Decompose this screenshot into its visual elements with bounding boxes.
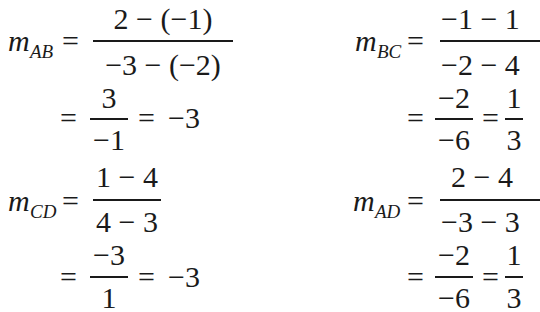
slope-ad-result-numerator: 1 — [505, 240, 523, 270]
slope-bc-step2-equals-2: = — [482, 103, 499, 133]
slope-ad-step2-equals-2: = — [482, 262, 499, 292]
slope-ab-result: −3 — [168, 103, 200, 133]
slope-ad-subscript: AD — [375, 202, 400, 221]
slope-ad-result-fraction-bar — [505, 276, 523, 278]
slope-ab-variable: m — [8, 26, 30, 56]
slope-cd-subscript: CD — [30, 202, 56, 221]
slope-bc-result-denominator: 3 — [505, 125, 523, 155]
slope-bc-result-fraction-bar — [505, 118, 523, 120]
slope-bc-subscript: BC — [377, 42, 401, 61]
slope-cd-numerator: 1 − 4 — [93, 162, 161, 192]
slope-ab-step2-denominator: −1 — [90, 125, 128, 155]
slope-ab-equals: = — [62, 26, 79, 56]
slope-ad-fraction-bar — [440, 199, 540, 201]
slope-ab-fraction-bar — [93, 40, 233, 42]
slope-ad-step2-denominator: −6 — [435, 283, 473, 312]
slope-ab-denominator: −3 − (−2) — [93, 50, 233, 80]
slope-ad-step2-fraction-bar — [435, 276, 473, 278]
slope-cd-step2-fraction-bar — [90, 276, 128, 278]
slope-cd-fraction-bar — [93, 199, 161, 201]
slope-ad-step2-equals: = — [407, 262, 424, 292]
slope-bc-step2-denominator: −6 — [435, 125, 473, 155]
slope-cd-variable: m — [8, 186, 30, 216]
slope-ab-step2-equals-2: = — [138, 103, 155, 133]
slope-ad-denominator: −3 − 3 — [441, 207, 520, 237]
slope-cd-step2-numerator: −3 — [90, 240, 128, 270]
slope-cd-equals: = — [62, 186, 79, 216]
slope-bc-numerator: −1 − 1 — [441, 4, 520, 34]
slope-ab-step2-equals: = — [60, 103, 77, 133]
slope-bc-step2-fraction-bar — [435, 118, 473, 120]
slope-bc-result-numerator: 1 — [505, 83, 523, 113]
slope-bc-fraction-bar — [440, 40, 540, 42]
slope-ab-step2-numerator: 3 — [90, 83, 128, 113]
slope-bc-equals: = — [407, 26, 424, 56]
slope-cd-result: −3 — [168, 262, 200, 292]
slope-ab-subscript: AB — [30, 42, 53, 61]
slope-ad-variable: m — [353, 186, 375, 216]
slope-ad-result-denominator: 3 — [505, 283, 523, 312]
slope-cd-step2-denominator: 1 — [90, 283, 128, 312]
slope-cd-step2-equals-2: = — [138, 262, 155, 292]
slope-ad-step2-numerator: −2 — [435, 240, 473, 270]
slope-ad-equals: = — [407, 186, 424, 216]
slope-ad-numerator: 2 − 4 — [451, 162, 513, 192]
slope-bc-variable: m — [355, 26, 377, 56]
slope-cd-step2-equals: = — [60, 262, 77, 292]
slope-bc-denominator: −2 − 4 — [441, 50, 520, 80]
slope-ab-step2-fraction-bar — [90, 118, 128, 120]
slope-bc-step2-numerator: −2 — [435, 83, 473, 113]
slope-ab-numerator: 2 − (−1) — [93, 4, 233, 34]
slope-bc-step2-equals: = — [407, 103, 424, 133]
slope-cd-denominator: 4 − 3 — [93, 207, 161, 237]
